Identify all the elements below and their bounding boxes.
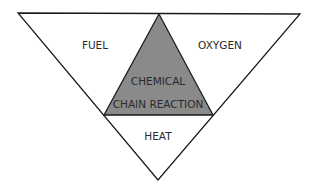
oxygen-label: OXYGEN bbox=[198, 39, 242, 51]
heat-label: HEAT bbox=[144, 130, 172, 142]
fire-tetrahedron-diagram: FUEL OXYGEN CHEMICAL CHAIN REACTION HEAT bbox=[0, 0, 318, 188]
fuel-label: FUEL bbox=[82, 39, 108, 51]
chemical-label: CHEMICAL bbox=[131, 75, 186, 87]
chain-reaction-label: CHAIN REACTION bbox=[113, 98, 204, 110]
